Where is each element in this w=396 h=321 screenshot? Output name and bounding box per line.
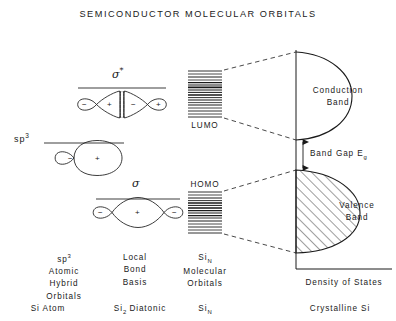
lobe-sign-sp3-large: + bbox=[95, 153, 100, 164]
col3-line2: Molecular bbox=[183, 267, 227, 276]
column-head-si-n-molecular: SiN Molecular Orbitals bbox=[183, 252, 227, 290]
dash-homo-top-to-valence-top bbox=[224, 170, 296, 191]
band-gap-label: Band Gap Eg bbox=[310, 148, 367, 161]
homo-level-stack bbox=[188, 192, 222, 233]
valence-band-line2: Band bbox=[346, 213, 369, 222]
col3-line3: Orbitals bbox=[187, 279, 222, 288]
col2-line2: Bond bbox=[124, 265, 147, 274]
correlation-dashed-lines bbox=[224, 52, 296, 253]
sigma-star-orbital-group bbox=[78, 88, 167, 118]
column-head-si2-diatomic: Local Bond Basis bbox=[123, 252, 148, 289]
lobe-sign-sp3-small: − bbox=[68, 153, 73, 164]
lobe-sign-sigma-star-inner-left: + bbox=[107, 99, 112, 110]
conduction-band-line1: Conduction bbox=[313, 86, 363, 95]
col1-line4: Orbitals bbox=[46, 292, 81, 301]
sigma-label: σ bbox=[132, 176, 140, 192]
valence-band-line1: Valence bbox=[339, 201, 374, 210]
lobe-sign-sigma-outer-right: − bbox=[172, 207, 177, 218]
lobe-sign-sigma-outer-left: − bbox=[98, 207, 103, 218]
col3-line1: SiN bbox=[198, 253, 211, 262]
lobe-sign-sigma-center: + bbox=[135, 207, 140, 218]
column-footer-crystalline-si: Crystalline Si bbox=[310, 303, 370, 315]
sigma-star-outer-left-lobe bbox=[78, 99, 97, 110]
sp3-orbital-label: sp3 bbox=[14, 131, 29, 146]
valence-band-label: Valence Band bbox=[339, 200, 374, 225]
col1-line1: sp3 bbox=[57, 255, 71, 264]
lumo-level-stack bbox=[188, 71, 222, 117]
conduction-band-label: Conduction Band bbox=[313, 85, 363, 110]
col1-line3: Hybrid bbox=[49, 279, 78, 288]
lobe-sign-sigma-star-outer-left: − bbox=[82, 99, 87, 110]
sp3-orbital-group bbox=[44, 141, 124, 176]
col2-line3: Basis bbox=[123, 278, 148, 287]
lobe-sign-sigma-star-inner-right: − bbox=[131, 99, 136, 110]
sigma-star-label: σ* bbox=[112, 65, 123, 82]
column-footer-si-n: SiN bbox=[198, 303, 211, 316]
col1-line2: Atomic bbox=[49, 267, 79, 276]
column-head-si-atom: sp3 Atomic Hybrid Orbitals bbox=[46, 252, 81, 303]
dash-lumo-top-to-conduction-top bbox=[224, 52, 296, 70]
dash-lumo-bottom-to-conduction-bottom bbox=[224, 118, 296, 140]
lobe-sign-sigma-star-outer-right: + bbox=[156, 99, 161, 110]
lumo-label: LUMO bbox=[191, 120, 218, 132]
column-footer-si2-diatomic: Si2 Diatonic bbox=[114, 303, 166, 316]
semiconductor-molecular-orbitals-figure: SEMICONDUCTOR MOLECULAR ORBITALS σ* σ sp… bbox=[0, 0, 396, 321]
dash-homo-bottom-to-valence-bottom bbox=[224, 234, 296, 253]
figure-title: SEMICONDUCTOR MOLECULAR ORBITALS bbox=[79, 8, 316, 21]
homo-label: HOMO bbox=[190, 179, 219, 191]
col2-line1: Local bbox=[123, 253, 147, 262]
column-footer-si-atom: Si Atom bbox=[31, 303, 66, 315]
conduction-band-line2: Band bbox=[327, 98, 350, 107]
x-axis-label-density-of-states: Density of States bbox=[305, 277, 382, 289]
